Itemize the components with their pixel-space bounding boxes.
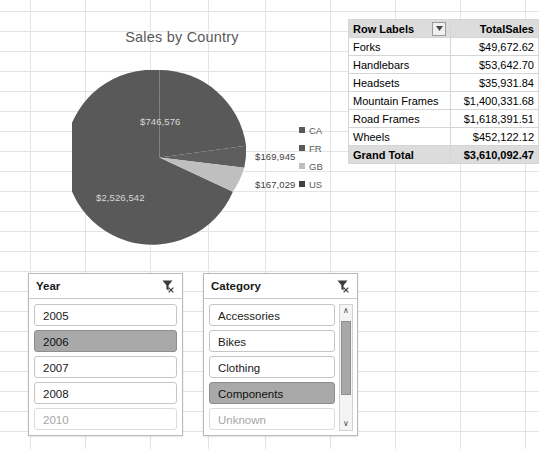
slicer-item-accessories[interactable]: Accessories bbox=[209, 304, 335, 326]
pie-plot-area: $746,576 $169,945 $167,029 $2,526,542 bbox=[72, 70, 247, 245]
pivot-cell-value[interactable]: $53,642.70 bbox=[451, 56, 539, 74]
legend-item-fr[interactable]: FR bbox=[299, 139, 344, 157]
legend-item-us[interactable]: US bbox=[299, 175, 344, 193]
pivot-cell-value[interactable]: $35,931.84 bbox=[451, 74, 539, 92]
pivot-total-label[interactable]: Grand Total bbox=[349, 146, 451, 164]
table-row[interactable]: Mountain Frames $1,400,331.68 bbox=[349, 92, 539, 110]
slicer-item-2007[interactable]: 2007 bbox=[34, 356, 177, 378]
pivot-cell-value[interactable]: $452,122.12 bbox=[451, 128, 539, 146]
slicer-item-2006[interactable]: 2006 bbox=[34, 330, 177, 352]
legend-swatch-icon bbox=[299, 163, 305, 169]
legend-label: GB bbox=[309, 161, 323, 172]
pivot-header-label: Row Labels bbox=[353, 23, 414, 35]
pie-slice-ca[interactable] bbox=[160, 70, 247, 158]
legend-item-gb[interactable]: GB bbox=[299, 157, 344, 175]
grid-row-line bbox=[0, 271, 539, 272]
scroll-down-icon[interactable]: ∨ bbox=[340, 418, 352, 430]
pivot-header-row-labels[interactable]: Row Labels bbox=[349, 20, 451, 38]
pivot-cell-label[interactable]: Wheels bbox=[349, 128, 451, 146]
slicer-item-clothing[interactable]: Clothing bbox=[209, 356, 335, 378]
grid-row-line bbox=[0, 251, 539, 252]
pivot-cell-value[interactable]: $49,672.62 bbox=[451, 38, 539, 56]
pivot-cell-label[interactable]: Handlebars bbox=[349, 56, 451, 74]
slicer-item-2008[interactable]: 2008 bbox=[34, 382, 177, 404]
pie-label-ca: $746,576 bbox=[140, 116, 180, 127]
pivot-cell-value[interactable]: $1,400,331.68 bbox=[451, 92, 539, 110]
table-row[interactable]: Forks $49,672.62 bbox=[349, 38, 539, 56]
pivot-cell-label[interactable]: Forks bbox=[349, 38, 451, 56]
slicer-category-body: Accessories Bikes Clothing Components Un… bbox=[204, 299, 357, 436]
table-row[interactable]: Wheels $452,122.12 bbox=[349, 128, 539, 146]
slicer-item-unknown[interactable]: Unknown bbox=[209, 408, 335, 430]
legend-swatch-icon bbox=[299, 145, 305, 151]
pivot-table[interactable]: Row Labels TotalSales Forks $49,672.62 H… bbox=[348, 19, 539, 164]
pivot-header-row: Row Labels TotalSales bbox=[349, 20, 539, 38]
slicer-year-body: 2005 2006 2007 2008 2010 bbox=[29, 299, 182, 436]
slicer-year-title: Year bbox=[36, 280, 60, 292]
slicer-item-components[interactable]: Components bbox=[209, 382, 335, 404]
slicer-item-bikes[interactable]: Bikes bbox=[209, 330, 335, 352]
slicer-year[interactable]: Year 2005 2006 2007 2008 2010 bbox=[28, 273, 183, 436]
legend-label: FR bbox=[309, 143, 322, 154]
legend-item-ca[interactable]: CA bbox=[299, 121, 344, 139]
slicer-category-items: Accessories Bikes Clothing Components Un… bbox=[209, 304, 335, 434]
pivot-cell-value[interactable]: $1,618,391.51 bbox=[451, 110, 539, 128]
scroll-up-icon[interactable]: ∧ bbox=[340, 305, 352, 317]
pie-label-us: $2,526,542 bbox=[96, 192, 145, 203]
slicer-year-header: Year bbox=[29, 274, 182, 299]
table-row[interactable]: Road Frames $1,618,391.51 bbox=[349, 110, 539, 128]
table-row[interactable]: Handlebars $53,642.70 bbox=[349, 56, 539, 74]
pie-svg bbox=[72, 70, 247, 245]
pivot-header-label: TotalSales bbox=[480, 23, 534, 35]
pivot-body: Forks $49,672.62 Handlebars $53,642.70 H… bbox=[349, 38, 539, 164]
chart-legend: CA FR GB US bbox=[299, 121, 344, 193]
legend-swatch-icon bbox=[299, 127, 305, 133]
pivot-total-value[interactable]: $3,610,092.47 bbox=[451, 146, 539, 164]
pie-label-fr: $169,945 bbox=[255, 151, 295, 162]
legend-label: US bbox=[309, 179, 322, 190]
chart-title: Sales by Country bbox=[22, 29, 342, 45]
scrollbar-thumb[interactable] bbox=[341, 321, 351, 395]
pivot-cell-label[interactable]: Road Frames bbox=[349, 110, 451, 128]
slicer-year-items: 2005 2006 2007 2008 2010 bbox=[34, 304, 177, 434]
slicer-item-2005[interactable]: 2005 bbox=[34, 304, 177, 326]
legend-swatch-icon bbox=[299, 181, 305, 187]
filter-dropdown-icon[interactable] bbox=[432, 22, 446, 36]
pivot-grand-total-row[interactable]: Grand Total $3,610,092.47 bbox=[349, 146, 539, 164]
clear-filter-icon[interactable] bbox=[160, 278, 176, 294]
slicer-category[interactable]: Category Accessories Bikes Clothing Comp… bbox=[203, 273, 358, 436]
grid-row-line bbox=[0, 11, 539, 12]
slicer-scrollbar[interactable]: ∧ ∨ bbox=[339, 304, 353, 431]
sales-by-country-chart[interactable]: Sales by Country $746,576 $169,945 $167,… bbox=[22, 14, 342, 249]
pivot-cell-label[interactable]: Headsets bbox=[349, 74, 451, 92]
clear-filter-icon[interactable] bbox=[335, 278, 351, 294]
table-row[interactable]: Headsets $35,931.84 bbox=[349, 74, 539, 92]
slicer-item-2010[interactable]: 2010 bbox=[34, 408, 177, 430]
pie-label-gb: $167,029 bbox=[255, 179, 295, 190]
pivot-header-totalsales[interactable]: TotalSales bbox=[451, 20, 539, 38]
legend-label: CA bbox=[309, 125, 322, 136]
pivot-cell-label[interactable]: Mountain Frames bbox=[349, 92, 451, 110]
slicer-category-title: Category bbox=[211, 280, 261, 292]
slicer-category-header: Category bbox=[204, 274, 357, 299]
